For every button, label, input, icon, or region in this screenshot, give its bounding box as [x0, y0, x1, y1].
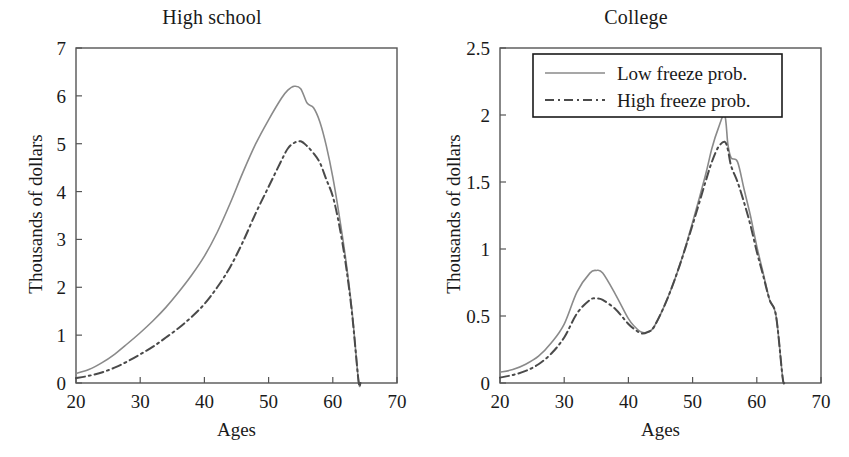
legend-label: Low freeze prob. [617, 63, 747, 84]
x-tick-label: 60 [323, 391, 342, 412]
y-tick-label: 0.5 [466, 306, 490, 327]
x-tick-label: 50 [259, 391, 278, 412]
y-tick-label: 3 [57, 229, 67, 250]
y-tick-label: 2.5 [466, 38, 490, 59]
plot-area-college: 20304050607000.511.522.5Low freeze prob.… [424, 0, 848, 457]
x-tick-label: 30 [131, 391, 150, 412]
x-tick-label: 70 [812, 391, 831, 412]
y-tick-label: 4 [57, 182, 67, 203]
x-tick-label: 20 [491, 391, 510, 412]
y-tick-label: 0 [481, 373, 491, 394]
x-tick-label: 50 [683, 391, 702, 412]
legend-label: High freeze prob. [617, 90, 750, 111]
figure-two-panel-line-charts: High school Thousands of dollars Ages 20… [0, 0, 849, 457]
series-line-low-freeze-prob [500, 115, 784, 384]
panel-college: College Thousands of dollars Ages 203040… [424, 0, 848, 457]
plot-area-high-school: 20304050607001234567 [0, 0, 424, 457]
y-tick-label: 1 [57, 325, 67, 346]
x-tick-label: 20 [67, 391, 86, 412]
x-tick-label: 40 [195, 391, 214, 412]
y-tick-label: 7 [57, 38, 67, 59]
series-line-low-freeze-prob [76, 86, 360, 386]
x-tick-label: 30 [555, 391, 574, 412]
panel-high-school: High school Thousands of dollars Ages 20… [0, 0, 424, 457]
y-tick-label: 1 [481, 239, 491, 260]
axis-frame [76, 48, 397, 383]
x-tick-label: 70 [388, 391, 407, 412]
legend: Low freeze prob.High freeze prob. [533, 54, 782, 117]
x-tick-label: 60 [747, 391, 766, 412]
y-tick-label: 6 [57, 86, 67, 107]
y-tick-label: 2 [57, 277, 67, 298]
y-tick-label: 0 [57, 373, 67, 394]
y-tick-label: 2 [481, 105, 491, 126]
y-tick-label: 1.5 [466, 172, 490, 193]
series-line-high-freeze-prob [76, 141, 360, 386]
y-tick-label: 5 [57, 134, 67, 155]
x-tick-label: 40 [619, 391, 638, 412]
